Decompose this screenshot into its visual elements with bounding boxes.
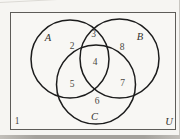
region-label-4-center: 4	[93, 58, 98, 68]
scan-artifact-bottom	[0, 135, 180, 139]
region-label-5-a-and-c: 5	[70, 80, 75, 90]
venn-diagram: A B C U 1 2 3 4 5 6 7 8	[0, 0, 180, 139]
region-label-2-a-only: 2	[70, 42, 75, 52]
region-label-3-a-and-b: 3	[91, 30, 96, 40]
region-label-8-b-only: 8	[120, 43, 125, 53]
set-label-a: A	[45, 33, 51, 44]
universe-label: U	[165, 117, 173, 128]
region-label-7-b-and-c: 7	[120, 79, 125, 89]
set-label-b: B	[137, 32, 143, 43]
set-label-c: C	[91, 111, 98, 122]
region-label-6-c-only: 6	[95, 97, 100, 107]
scan-artifact-right	[179, 0, 180, 135]
region-label-1-outside: 1	[15, 117, 20, 127]
